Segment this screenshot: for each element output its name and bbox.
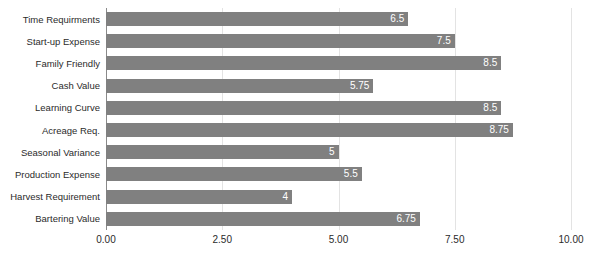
bar[interactable]: 8.5 xyxy=(106,56,501,70)
bar-value-label: 7.5 xyxy=(437,36,455,46)
category-label: Harvest Requirement xyxy=(0,186,100,208)
bar[interactable]: 8.5 xyxy=(106,101,501,115)
category-label: Seasonal Variance xyxy=(0,141,100,163)
x-tick-label: 10.00 xyxy=(558,234,583,245)
bar-row: 6.5 xyxy=(106,8,571,30)
bar-row: 6.75 xyxy=(106,208,571,230)
bar-value-label: 6.5 xyxy=(390,14,408,24)
bar-row: 8.75 xyxy=(106,119,571,141)
bar[interactable]: 6.75 xyxy=(106,212,420,226)
bar-row: 4 xyxy=(106,186,571,208)
bar-value-label: 8.5 xyxy=(483,103,501,113)
bar[interactable]: 5 xyxy=(106,145,339,159)
category-label: Time Requirments xyxy=(0,8,100,30)
category-label: Bartering Value xyxy=(0,208,100,230)
category-label: Learning Curve xyxy=(0,97,100,119)
category-label: Cash Value xyxy=(0,75,100,97)
x-tick-label: 5.00 xyxy=(329,234,348,245)
bar-row: 5.5 xyxy=(106,163,571,185)
x-tick-label: 2.50 xyxy=(213,234,232,245)
bar-row: 5.75 xyxy=(106,75,571,97)
bar-chart: Time RequirmentsStart-up ExpenseFamily F… xyxy=(0,0,603,260)
bar[interactable]: 5.5 xyxy=(106,167,362,181)
bar[interactable]: 7.5 xyxy=(106,34,455,48)
bar-row: 7.5 xyxy=(106,30,571,52)
category-label: Production Expense xyxy=(0,163,100,185)
x-axis-tick-labels: 0.002.505.007.5010.00 xyxy=(106,234,571,254)
bar-value-label: 5.5 xyxy=(344,169,362,179)
gridline-10.00 xyxy=(571,8,572,230)
x-tick-label: 7.50 xyxy=(445,234,464,245)
bar-value-label: 5 xyxy=(329,147,339,157)
category-axis-labels: Time RequirmentsStart-up ExpenseFamily F… xyxy=(0,8,100,230)
bar-row: 5 xyxy=(106,141,571,163)
bar-value-label: 5.75 xyxy=(350,81,373,91)
bar-value-label: 6.75 xyxy=(396,214,419,224)
category-label: Family Friendly xyxy=(0,52,100,74)
bar-row: 8.5 xyxy=(106,97,571,119)
bar-row: 8.5 xyxy=(106,52,571,74)
bar-rows: 6.57.58.55.758.58.7555.546.75 xyxy=(106,8,571,230)
bar-value-label: 8.5 xyxy=(483,58,501,68)
category-label: Start-up Expense xyxy=(0,30,100,52)
bar[interactable]: 4 xyxy=(106,190,292,204)
bar[interactable]: 5.75 xyxy=(106,79,373,93)
bar[interactable]: 6.5 xyxy=(106,12,408,26)
bar[interactable]: 8.75 xyxy=(106,123,513,137)
category-label: Acreage Req. xyxy=(0,119,100,141)
bar-value-label: 8.75 xyxy=(489,125,512,135)
x-tick-label: 0.00 xyxy=(96,234,115,245)
bar-value-label: 4 xyxy=(282,192,292,202)
plot-area: 6.57.58.55.758.58.7555.546.75 xyxy=(106,8,571,230)
